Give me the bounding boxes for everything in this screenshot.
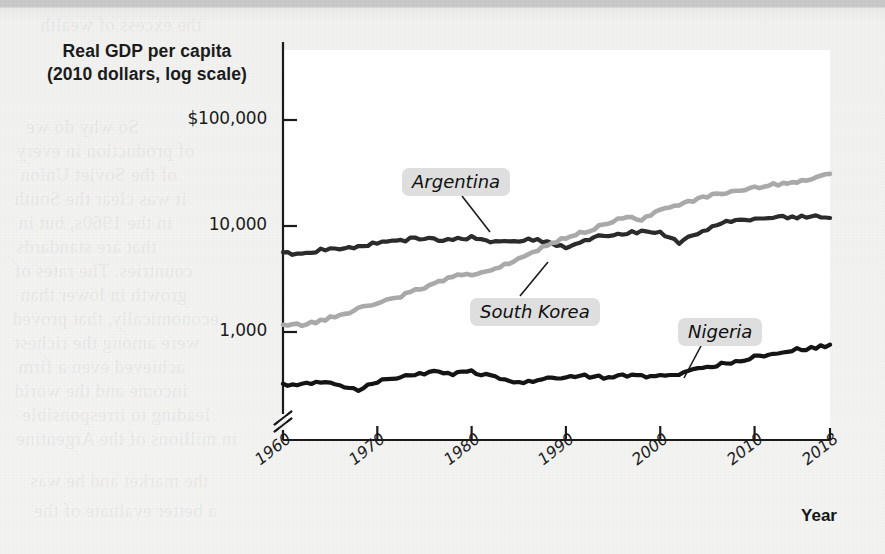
leader-line-argentina bbox=[462, 196, 490, 232]
series-line-argentina bbox=[283, 215, 830, 254]
chart-figure: Real GDP per capita (2010 dollars, log s… bbox=[0, 0, 885, 554]
y-tick-label-100000: $100,000 bbox=[80, 108, 267, 128]
leader-line-nigeria bbox=[684, 344, 702, 378]
chart-tick-marks bbox=[283, 120, 755, 440]
chart-series-lines bbox=[283, 174, 830, 391]
y-tick-label-1000: 1,000 bbox=[80, 320, 267, 340]
y-tick-label-10000: 10,000 bbox=[80, 214, 267, 234]
series-line-nigeria bbox=[283, 345, 830, 391]
series-label-south-korea: South Korea bbox=[470, 298, 600, 326]
chart-label-leader-lines bbox=[462, 196, 702, 378]
series-label-nigeria: Nigeria bbox=[678, 318, 762, 346]
chart-svg bbox=[0, 0, 885, 554]
series-label-argentina: Argentina bbox=[402, 168, 510, 196]
leader-line-south-korea bbox=[520, 262, 548, 296]
